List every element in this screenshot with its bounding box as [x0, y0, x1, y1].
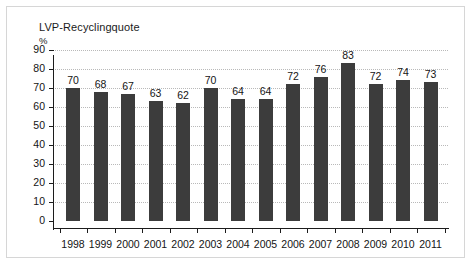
y-axis-tick-label: 70: [19, 81, 45, 93]
bar: [424, 82, 438, 221]
chart-title: LVP-Recyclingquote: [39, 21, 140, 33]
bar: [121, 94, 135, 221]
y-axis-tick-mark: [49, 202, 54, 203]
y-axis-tick-label: 10: [19, 195, 45, 207]
gridline: [53, 164, 448, 165]
y-axis-tick-label: 50: [19, 119, 45, 131]
x-axis-tick-mark: [445, 228, 446, 233]
bar-value-label: 64: [246, 85, 286, 97]
gridline: [53, 107, 448, 108]
y-axis-tick-mark: [49, 145, 54, 146]
bar: [314, 77, 328, 221]
x-axis-tick-mark: [335, 228, 336, 233]
x-axis-tick-mark: [307, 228, 308, 233]
bar: [286, 84, 300, 221]
bar: [149, 101, 163, 221]
bar-value-label: 73: [411, 68, 451, 80]
y-axis-tick-mark: [49, 69, 54, 70]
bar-value-label: 62: [163, 89, 203, 101]
x-axis-tick-mark: [87, 228, 88, 233]
x-axis-tick-mark: [280, 228, 281, 233]
y-axis-tick-label: 40: [19, 138, 45, 150]
y-axis-tick-mark: [49, 126, 54, 127]
x-axis-tick-mark: [362, 228, 363, 233]
x-axis-tick-mark: [115, 228, 116, 233]
bar: [369, 84, 383, 221]
x-axis-tick-mark: [60, 228, 61, 233]
y-axis-tick-mark: [49, 164, 54, 165]
chart-screenshot: LVP-Recyclingquote % 9080706050403020100…: [0, 0, 473, 266]
gridline: [53, 126, 448, 127]
bar-value-label: 70: [191, 74, 231, 86]
gridline: [53, 50, 448, 51]
bar: [66, 88, 80, 221]
y-axis-tick-label: 60: [19, 100, 45, 112]
gridline: [53, 145, 448, 146]
x-axis-tick-mark: [170, 228, 171, 233]
bar: [176, 103, 190, 221]
x-axis-tick-mark: [197, 228, 198, 233]
bar: [94, 92, 108, 221]
y-axis-tick-mark: [49, 183, 54, 184]
x-axis-tick-label: 2011: [411, 238, 451, 250]
bar-value-label: 83: [328, 49, 368, 61]
x-axis-tick-mark: [390, 228, 391, 233]
bar: [231, 99, 245, 221]
x-axis-tick-mark: [252, 228, 253, 233]
y-axis-tick-mark: [49, 221, 54, 222]
x-axis-tick-mark: [225, 228, 226, 233]
gridline: [53, 183, 448, 184]
y-axis-tick-label: 90: [19, 43, 45, 55]
y-axis-tick-mark: [49, 50, 54, 51]
y-axis-tick-label: 20: [19, 176, 45, 188]
bar-value-label: 76: [301, 63, 341, 75]
y-axis-tick-label: 30: [19, 157, 45, 169]
bar: [204, 88, 218, 221]
x-axis-tick-mark: [417, 228, 418, 233]
x-axis-tick-mark: [142, 228, 143, 233]
gridline: [53, 202, 448, 203]
y-axis-tick-mark: [49, 107, 54, 108]
y-axis-tick-label: 80: [19, 62, 45, 74]
bar: [259, 99, 273, 221]
y-axis-tick-label: 0: [19, 214, 45, 226]
y-axis-tick-mark: [49, 88, 54, 89]
chart-frame: LVP-Recyclingquote % 9080706050403020100…: [6, 6, 465, 258]
bar: [396, 80, 410, 221]
bar: [341, 63, 355, 221]
